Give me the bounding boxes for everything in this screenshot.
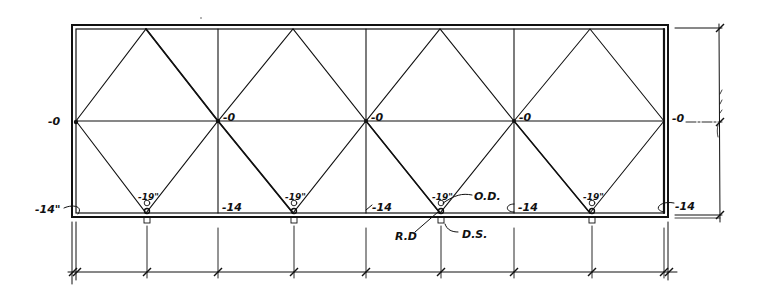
elevation-label: -14 xyxy=(222,201,242,214)
elevation-label: -0 xyxy=(672,112,685,125)
downspout-callout: D.S. xyxy=(462,228,487,241)
elevation-label: -14 xyxy=(675,200,695,213)
elevation-label: -0 xyxy=(48,115,61,128)
stray-mark xyxy=(200,17,202,19)
elevation-label: -0 xyxy=(519,111,532,124)
overflow-drain-callout: O.D. xyxy=(474,190,501,203)
elevation-label: -0 xyxy=(371,111,384,124)
elevation-label: -14 xyxy=(518,201,538,214)
elevation-label: -0 xyxy=(223,111,236,124)
elevation-label: -14" xyxy=(35,203,61,216)
elevation-label: -14 xyxy=(372,201,392,214)
roof-drain-callout: R.D xyxy=(395,230,417,243)
extension-lines xyxy=(72,222,668,284)
horizontal-dimension-line xyxy=(68,268,677,276)
roof-plan-drawing: -0 -0 -0 -0 -0 -14" -14 -14 -14 -14 -19"… xyxy=(0,0,761,297)
